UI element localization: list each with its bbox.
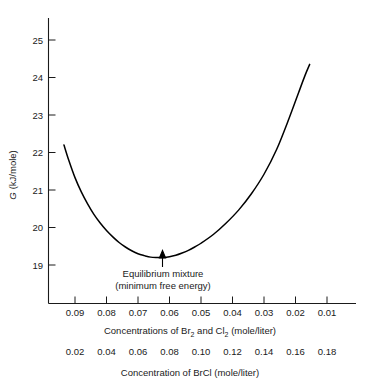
x-tick-label-primary-3: 0.06	[160, 307, 179, 318]
y-tick-label-24: 24	[32, 72, 43, 83]
x-tick-label-primary-4: 0.05	[192, 307, 211, 318]
x-axis-tick-labels-secondary: 0.02 0.04 0.06 0.08 0.10 0.12 0.14 0.16 …	[66, 346, 337, 357]
x-axis-title-primary-part1: Concentrations of Br	[104, 325, 191, 336]
x-tick-label-primary-5: 0.04	[223, 307, 242, 318]
x-axis-title-secondary: Concentration of BrCl (mole/liter)	[121, 367, 259, 378]
x-tick-label-secondary-3: 0.08	[160, 346, 179, 357]
free-energy-chart: 25 24 23 22 21 20 19 G(kJ/mole) 0.09 0.0…	[0, 0, 380, 392]
x-tick-label-secondary-0: 0.02	[66, 346, 85, 357]
y-tick-label-23: 23	[32, 110, 43, 121]
y-tick-label-20: 20	[32, 222, 43, 233]
x-tick-label-secondary-2: 0.06	[129, 346, 148, 357]
x-tick-label-secondary-6: 0.14	[255, 346, 274, 357]
x-tick-label-primary-8: 0.01	[318, 307, 337, 318]
y-axis-title-symbol: G	[7, 192, 18, 199]
x-tick-label-secondary-4: 0.10	[192, 346, 211, 357]
y-tick-label-19: 19	[32, 260, 43, 271]
x-axis-title-primary-part2: and Cl	[194, 325, 224, 336]
x-axis-title-primary: Concentrations of Br2 and Cl2 (mole/lite…	[104, 325, 276, 338]
x-axis-tick-labels-primary: 0.09 0.08 0.07 0.06 0.05 0.04 0.03 0.02 …	[66, 307, 337, 318]
x-axis-title-primary-part3: (mole/liter)	[229, 325, 277, 336]
y-tick-label-21: 21	[32, 185, 43, 196]
x-tick-label-secondary-7: 0.16	[286, 346, 305, 357]
x-tick-label-primary-2: 0.07	[129, 307, 148, 318]
annotation-line-1: Equilibrium mixture	[123, 268, 204, 279]
y-axis-title-units: (kJ/mole)	[7, 150, 18, 189]
y-tick-label-22: 22	[32, 147, 43, 158]
x-tick-label-primary-7: 0.02	[286, 307, 305, 318]
annotation-line-2: (minimum free energy)	[115, 280, 211, 291]
x-tick-label-secondary-1: 0.04	[97, 346, 116, 357]
x-tick-label-primary-6: 0.03	[255, 307, 274, 318]
y-tick-label-25: 25	[32, 35, 43, 46]
x-tick-label-secondary-8: 0.18	[318, 346, 337, 357]
equilibrium-annotation: Equilibrium mixture (minimum free energy…	[115, 268, 211, 291]
x-tick-label-secondary-5: 0.12	[223, 346, 242, 357]
x-tick-label-primary-1: 0.08	[97, 307, 116, 318]
x-tick-label-primary-0: 0.09	[66, 307, 85, 318]
